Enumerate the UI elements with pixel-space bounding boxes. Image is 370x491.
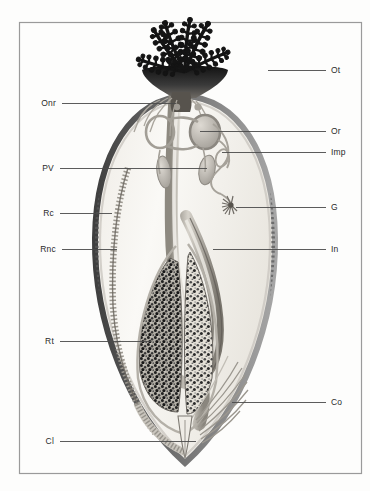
label-cl: Cl [46,437,54,446]
figure-root: Onr PV Rc Rnc Rt Cl Ot Or Imp G In Co [0,0,370,491]
label-rnc: Rnc [40,245,56,254]
label-pv: PV [42,164,54,173]
label-imp: Imp [331,148,346,157]
label-rc: Rc [43,209,54,218]
body-interior [95,96,275,463]
label-onr: Onr [41,99,56,108]
label-g: G [331,203,338,212]
label-or: Or [331,127,341,136]
label-in: In [331,245,339,254]
label-co: Co [331,398,342,407]
label-ot: Ot [331,66,340,75]
body-group [95,96,275,463]
label-rt: Rt [45,337,54,346]
